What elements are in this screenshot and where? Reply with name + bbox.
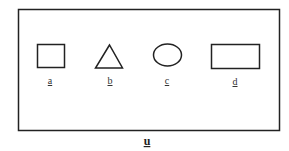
shape-label-c: c [165, 75, 170, 86]
diagram-canvas: a b c d u [0, 0, 289, 151]
rectangle-shape [212, 45, 260, 69]
ellipse-shape [154, 44, 182, 66]
shape-label-d: d [233, 76, 238, 87]
frame-border [19, 10, 280, 131]
triangle-shape [96, 45, 123, 68]
diagram-caption: u [144, 134, 151, 148]
square-shape [38, 45, 65, 68]
shape-a: a [38, 45, 65, 87]
shape-b: b [96, 45, 123, 86]
shape-d: d [212, 45, 260, 88]
shape-label-b: b [108, 75, 113, 86]
shape-label-a: a [48, 75, 53, 86]
shape-c: c [154, 44, 182, 86]
